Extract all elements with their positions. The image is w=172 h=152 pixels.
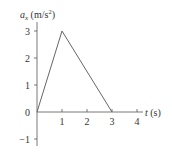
y-ticks bbox=[34, 31, 37, 139]
x-ticks bbox=[62, 109, 137, 112]
x-tick-label: 2 bbox=[85, 116, 90, 127]
x-axis-label: t (s) bbox=[145, 107, 161, 119]
x-tick-label: 1 bbox=[60, 116, 65, 127]
y-axis-label: ax (m/s2) bbox=[20, 8, 55, 22]
y-tick-label: 0 bbox=[25, 107, 30, 118]
y-tick-label: −1 bbox=[19, 134, 30, 145]
x-tick-label: 4 bbox=[135, 116, 140, 127]
y-tick-label: 2 bbox=[25, 53, 30, 64]
y-tick-label: 3 bbox=[25, 26, 30, 37]
x-tick-label: 3 bbox=[110, 116, 115, 127]
data-line bbox=[37, 31, 112, 112]
y-tick-label: 1 bbox=[25, 80, 30, 91]
chart: 3 2 1 0 −1 1 2 3 4 ax (m/s2) t (s) bbox=[0, 0, 172, 152]
